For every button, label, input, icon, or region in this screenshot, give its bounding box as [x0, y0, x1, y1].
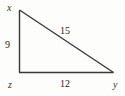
vertex-label-y: y [113, 80, 117, 90]
side-label-vertical-leg: 9 [5, 40, 10, 50]
side-label-horizontal-leg: 12 [60, 79, 70, 89]
vertex-label-x: x [7, 3, 11, 13]
hypotenuse-line [20, 10, 114, 73]
right-triangle-diagram: x z y 9 12 15 [0, 0, 125, 96]
vertex-label-z: z [8, 80, 12, 90]
side-label-hypotenuse: 15 [60, 26, 70, 36]
